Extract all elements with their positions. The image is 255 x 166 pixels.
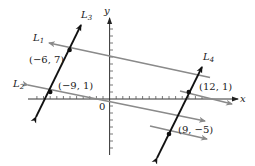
point-label-neg6-7: (−6, 7) (29, 54, 64, 65)
point-label-9-neg5: (9, −5) (178, 124, 213, 135)
point-neg6-7 (67, 48, 72, 53)
label-l2: L2 (12, 78, 25, 91)
label-l1: L1 (32, 32, 44, 45)
point-label-neg9-1: (−9, 1) (58, 80, 93, 91)
point-label-12-1: (12, 1) (199, 81, 232, 92)
x-axis: x (28, 93, 246, 104)
origin-label: 0 (99, 101, 105, 112)
label-l3: L3 (80, 9, 93, 22)
label-l4: L4 (202, 51, 214, 64)
point-12-1 (187, 90, 192, 95)
line-diagram: x y 0 L3 L1 L2 L4 (−6, 7) (−9, (0, 0, 255, 166)
y-axis-label: y (103, 5, 110, 16)
x-axis-label: x (240, 93, 246, 104)
point-9-neg5 (167, 132, 172, 137)
line-l1 (49, 43, 210, 78)
point-neg9-1 (48, 90, 53, 95)
y-axis: y 0 (99, 5, 113, 155)
